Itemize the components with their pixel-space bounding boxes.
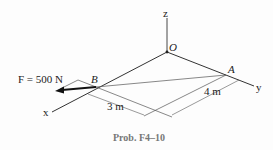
point-b-label: B (91, 73, 98, 85)
point-a-label: A (227, 63, 235, 75)
y-axis-label: y (256, 81, 262, 93)
force-label: F = 500 N (18, 73, 63, 85)
dim-label-4m: 4 m (204, 85, 221, 97)
y-axis (167, 52, 254, 86)
x-axis-label: x (43, 106, 49, 118)
z-axis-label: z (163, 7, 168, 19)
point-o-label: O (169, 41, 177, 53)
force-arrow (62, 87, 96, 90)
figure-caption: Prob. F4–10 (113, 132, 165, 143)
figure-prob-f4-10: z O A B y x F = 500 N 3 m 4 m Prob. F4–1… (0, 0, 273, 150)
diagram-canvas: z O A B y x F = 500 N 3 m 4 m Prob. F4–1… (0, 0, 273, 150)
dim-label-3m: 3 m (107, 100, 124, 112)
arrowhead-icon (55, 87, 64, 94)
origin-point (166, 51, 169, 54)
